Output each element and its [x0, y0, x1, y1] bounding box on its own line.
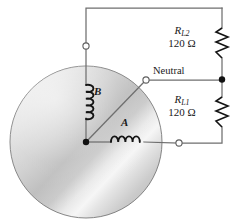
resistor-rl1-value: 120 Ω — [160, 107, 204, 119]
terminal-line-1[interactable] — [83, 43, 89, 49]
resistor-rl2-label: RL2 120 Ω — [160, 25, 204, 50]
junction-neutral-tap — [219, 76, 225, 82]
resistor-rl2 — [216, 28, 228, 58]
neutral-label: Neutral — [153, 65, 185, 76]
resistor-rl2-value: 120 Ω — [160, 38, 204, 50]
terminal-neutral[interactable] — [143, 77, 149, 83]
coil-b-label: B — [94, 86, 101, 98]
circuit-diagram — [0, 0, 241, 223]
resistor-rl1 — [216, 97, 228, 127]
terminal-line-2[interactable] — [176, 140, 182, 146]
wire-rl1-to-line2 — [179, 127, 222, 143]
figure-canvas: RL2 120 Ω RL1 120 Ω Neutral B A — [0, 0, 241, 223]
junction-rotor-center — [83, 139, 89, 145]
coil-a-label: A — [121, 117, 128, 129]
resistor-rl1-label: RL1 120 Ω — [160, 94, 204, 119]
